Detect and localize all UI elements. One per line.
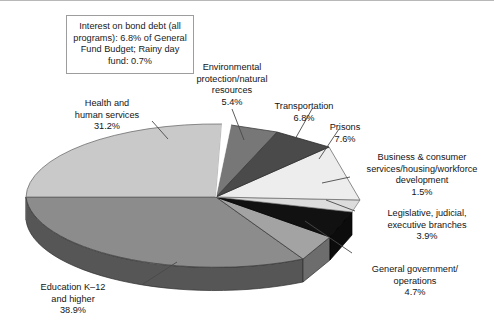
label-transportation-name: Transportation	[275, 101, 334, 111]
label-prisons-name: Prisons	[330, 122, 361, 132]
label-general-government-pct: 4.7%	[352, 287, 478, 298]
label-education-name: Education K–12 and higher	[41, 282, 106, 303]
label-health: Health and human services 31.2%	[52, 87, 162, 144]
callout-note-text: Interest on bond debt (all programs): 6.…	[73, 21, 186, 66]
pie-chart-figure: Interest on bond debt (all programs): 6.…	[0, 0, 494, 334]
label-education-pct: 38.9%	[18, 305, 128, 316]
label-education: Education K–12 and higher 38.9%	[18, 271, 128, 328]
label-health-name: Health and human services	[75, 98, 139, 119]
label-legislative: Legislative, judicial, executive branche…	[366, 197, 488, 254]
label-legislative-name: Legislative, judicial, executive branche…	[387, 208, 466, 229]
label-legislative-pct: 3.9%	[366, 231, 488, 242]
label-health-pct: 31.2%	[52, 121, 162, 132]
label-business-name: Business & consumer services/housing/wor…	[367, 152, 478, 185]
label-general-government: General government/ operations 4.7%	[352, 253, 478, 310]
label-general-government-name: General government/ operations	[372, 264, 458, 285]
label-environmental-name: Environmental protection/natural resourc…	[197, 62, 268, 95]
callout-note-box: Interest on bond debt (all programs): 6.…	[66, 15, 194, 74]
